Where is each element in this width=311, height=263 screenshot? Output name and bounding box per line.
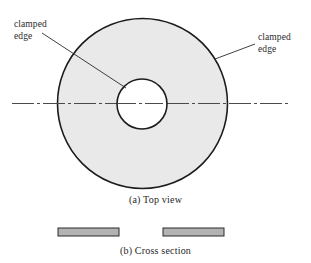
leader-line-right bbox=[215, 44, 255, 59]
cross-section-bar-right bbox=[163, 228, 224, 236]
label-clamped-edge-right: clamped edge bbox=[258, 31, 291, 55]
caption-top-view: (a) Top view bbox=[0, 194, 311, 205]
caption-cross-section: (b) Cross section bbox=[0, 245, 311, 256]
figure-container: clamped edge clamped edge (a) Top view (… bbox=[0, 0, 311, 263]
label-clamped-edge-left: clamped edge bbox=[14, 18, 47, 42]
label-clamped-edge-left-line2: edge bbox=[14, 30, 47, 42]
label-clamped-edge-right-line1: clamped bbox=[258, 31, 291, 43]
label-clamped-edge-left-line1: clamped bbox=[14, 18, 47, 30]
cross-section-bar-left bbox=[58, 228, 119, 236]
label-clamped-edge-right-line2: edge bbox=[258, 43, 291, 55]
